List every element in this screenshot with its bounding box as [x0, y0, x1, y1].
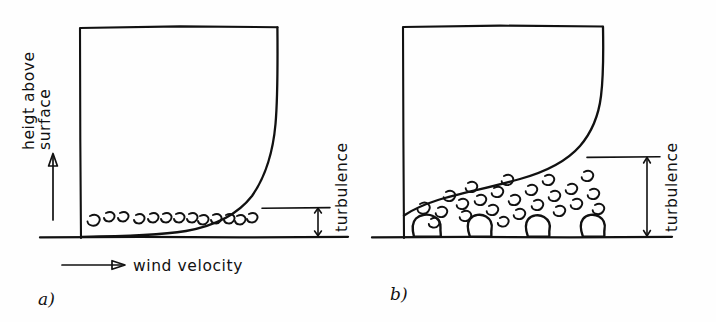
- panel-b-dimension-line: [587, 157, 660, 158]
- panel-b-group: [372, 26, 672, 238]
- panel-a-caption: a): [38, 289, 55, 309]
- eddy-curl: [543, 175, 554, 185]
- eddy-curl: [460, 211, 471, 221]
- eddy-curl: [526, 185, 537, 195]
- rock: [468, 215, 492, 237]
- eddy-curl: [436, 207, 447, 217]
- panel-a-dimension-line: [262, 208, 330, 209]
- panel-b-caption: b): [390, 284, 408, 304]
- eddy-curl: [509, 195, 520, 205]
- panel-b-velocity-profile: [404, 27, 603, 216]
- panel-b-turbulence-label: turbulence: [663, 142, 681, 232]
- eddy-curl: [247, 213, 257, 222]
- eddy-curl: [554, 206, 565, 216]
- eddy-curl: [487, 205, 498, 215]
- eddy-curl: [532, 200, 543, 210]
- eddy-curl: [549, 191, 560, 201]
- panel-b-frame: [403, 26, 603, 238]
- eddy-curl: [498, 217, 509, 227]
- eddy-curl: [235, 215, 245, 224]
- eddy-curl: [104, 212, 114, 221]
- panel-a-y-axis-label-line2: surface: [36, 89, 54, 151]
- eddy-curl: [88, 215, 100, 226]
- eddy-curl: [198, 215, 208, 224]
- panel-a-frame: [80, 26, 278, 238]
- eddy-curl: [492, 187, 503, 197]
- eddy-curl: [118, 212, 128, 221]
- rock: [526, 215, 550, 237]
- panel-a-group: [40, 26, 348, 269]
- diagram-canvas: heigt above surface wind velocity turbul…: [0, 0, 716, 322]
- eddy-curl: [161, 213, 171, 222]
- panel-a-x-axis-label: wind velocity: [133, 257, 243, 275]
- eddy-curl: [582, 171, 593, 181]
- eddy-curl: [148, 213, 158, 222]
- panel-a-velocity-profile: [82, 28, 278, 237]
- eddy-curl: [593, 204, 604, 214]
- eddy-curl: [475, 195, 486, 205]
- panel-b-eddy-group: [418, 171, 605, 228]
- panel-a-turbulence-label: turbulence: [333, 142, 351, 232]
- rock: [581, 215, 605, 237]
- eddy-curl: [514, 209, 525, 219]
- eddy-curl: [566, 184, 577, 194]
- eddy-curl: [134, 214, 144, 223]
- eddy-curl: [571, 199, 582, 209]
- eddy-curl: [588, 189, 599, 199]
- eddy-curl: [457, 199, 468, 209]
- eddy-curl: [187, 213, 197, 222]
- wind-profile-figure: heigt above surface wind velocity turbul…: [0, 0, 716, 322]
- eddy-curl: [174, 213, 184, 222]
- panel-a-eddy-group: [88, 212, 258, 226]
